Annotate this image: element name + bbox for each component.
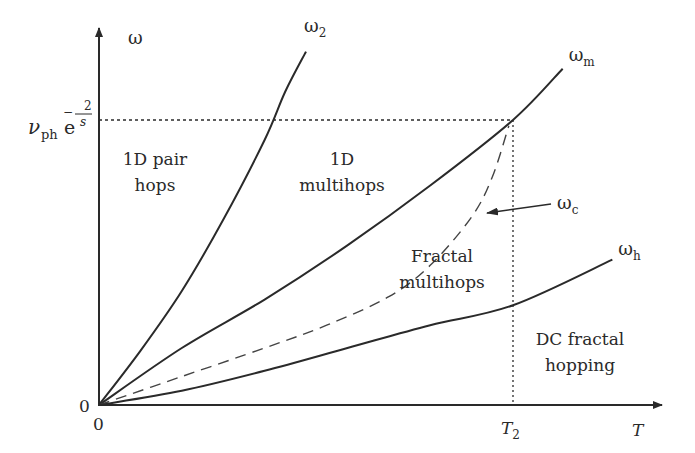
series-group bbox=[99, 52, 612, 405]
series-label-omega-m: ωm bbox=[569, 44, 596, 69]
y-tick-vph-sub: ph bbox=[41, 127, 58, 142]
y-tick-vph-exp-num: 2 bbox=[84, 99, 92, 113]
series-label-omega-h-main: ω bbox=[618, 238, 633, 259]
omega-c-pointer-arrow bbox=[487, 204, 551, 213]
y-tick-vph-exp-base: e bbox=[64, 116, 75, 138]
series-line-omega-2 bbox=[99, 52, 306, 405]
y-tick-vph-exp-sign: − bbox=[63, 105, 73, 119]
region-1d-pair-hops-line1: 1D pair bbox=[123, 149, 188, 169]
x-axis-label: T bbox=[632, 420, 645, 440]
y-axis-label: ω bbox=[128, 27, 143, 48]
region-1d-multihops-line1: 1D bbox=[330, 149, 354, 169]
x-tick-label-0: 0 bbox=[93, 414, 104, 434]
region-fractal-multihops-line2: multihops bbox=[399, 272, 485, 292]
series-label-omega-m-sub: m bbox=[583, 55, 595, 69]
y-tick-label-0: 0 bbox=[79, 396, 90, 416]
region-fractal-multihops-line1: Fractal bbox=[411, 246, 473, 266]
series-label-omega-2-sub: 2 bbox=[319, 26, 327, 40]
x-tick-label-t2: T2 bbox=[501, 418, 520, 442]
series-label-omega-m-main: ω bbox=[569, 44, 584, 65]
region-dc-fractal-hopping-line1: DC fractal bbox=[536, 329, 625, 349]
series-label-omega-h: ωh bbox=[618, 238, 641, 263]
y-tick-vph-main: ν bbox=[28, 115, 40, 139]
x-tick-t2-sub: 2 bbox=[512, 428, 520, 442]
chart: ω T 0 0 T2 ν ph e − 2 s ω2 ωm ωc ωh 1D p… bbox=[0, 0, 695, 453]
region-1d-pair-hops-line2: hops bbox=[135, 175, 176, 195]
region-1d-multihops-line2: multihops bbox=[299, 175, 385, 195]
series-label-omega-h-sub: h bbox=[633, 249, 641, 263]
series-label-omega-c-sub: c bbox=[572, 203, 579, 217]
region-dc-fractal-hopping-line2: hopping bbox=[545, 355, 615, 375]
series-label-omega-c-main: ω bbox=[557, 192, 572, 213]
series-label-omega-2-main: ω bbox=[304, 15, 319, 36]
series-label-omega-c: ωc bbox=[557, 192, 579, 217]
series-label-omega-2: ω2 bbox=[304, 15, 326, 40]
series-line-omega-m bbox=[99, 69, 563, 405]
y-tick-vph-exp-den: s bbox=[80, 115, 86, 129]
y-tick-label-vph: ν ph e − 2 s bbox=[28, 99, 92, 142]
